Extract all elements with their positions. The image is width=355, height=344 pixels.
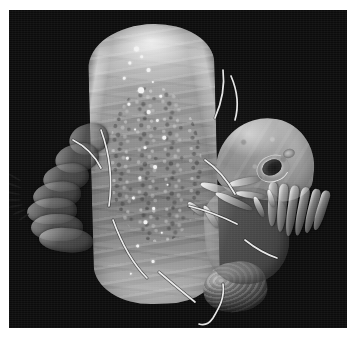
micrograph-panel	[9, 10, 347, 328]
seta-filament	[215, 70, 224, 118]
seta-filament	[231, 76, 237, 120]
posterior-segment-stack	[25, 124, 109, 250]
debris-speck	[127, 103, 130, 106]
debris-speck	[138, 176, 141, 179]
debris-speck	[126, 157, 129, 160]
seta-shadow	[215, 70, 224, 118]
debris-speck	[138, 87, 144, 93]
body-segment-lobe	[38, 226, 94, 254]
bristle	[9, 172, 21, 182]
bristle	[9, 190, 21, 195]
figure-root	[0, 0, 355, 344]
debris-speck	[136, 244, 139, 247]
debris-speck	[134, 46, 139, 51]
debris-speck	[144, 146, 147, 149]
ventral-rib-plates	[263, 182, 329, 244]
debris-speck	[128, 62, 131, 65]
debris-speck	[152, 260, 155, 263]
debris-speck	[159, 95, 162, 98]
debris-speck	[143, 220, 147, 224]
bristle	[9, 181, 22, 189]
bristle	[9, 204, 23, 209]
debris-speck	[162, 136, 166, 140]
debris-speck	[152, 207, 155, 210]
bristle	[9, 199, 21, 201]
debris-speck	[123, 77, 126, 80]
specimen-larva	[9, 10, 347, 328]
seta-shadow	[231, 76, 237, 120]
